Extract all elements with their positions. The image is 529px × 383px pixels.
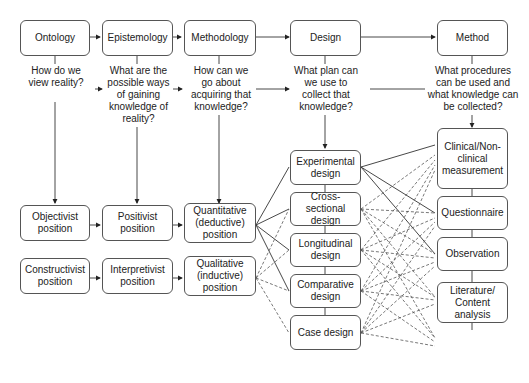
qualitative-label: Qualitative (inductive) position [188,258,252,294]
method-item-label: Literature/ Content analysis [441,285,504,321]
method-item: Literature/ Content analysis [437,282,508,323]
design-item: Cross-sectional design [290,192,361,226]
design-item: Comparative design [290,274,361,308]
epistemology-label: Epistemology [107,32,167,44]
constructivist-position-box: Constructivist position [20,258,90,294]
ontology-label: Ontology [35,32,75,44]
design-item-label: Case design [298,327,354,339]
method-item-label: Questionnaire [441,207,503,219]
method-item: Questionnaire [437,196,508,230]
design-item: Case design [290,315,361,350]
methodology-box: Methodology [184,20,256,56]
design-item-label: Cross-sectional design [294,191,357,227]
interpretivist-position-box: Interpretivist position [102,258,173,294]
positivist-position-box: Positivist position [102,205,173,241]
method-label: Method [456,32,489,44]
objectivist-label: Objectivist position [24,211,86,235]
qualitative-position-box: Qualitative (inductive) position [184,256,256,296]
quantitative-position-box: Quantitative (deductive) position [184,203,256,243]
design-item-label: Comparative design [294,279,357,303]
ontology-box: Ontology [20,20,90,56]
epistemology-box: Epistemology [102,20,173,56]
epistemology-question: What are the possible ways of gaining kn… [104,65,173,125]
quantitative-label: Quantitative (deductive) position [188,205,252,241]
ontology-question: How do we view reality? [24,65,88,89]
connector-lines [0,0,529,383]
design-item-label: Experimental design [294,156,357,180]
method-item: Clinical/Non-clinical measurement [437,128,508,189]
interpretivist-label: Interpretivist position [106,264,169,288]
design-box: Design [290,20,361,56]
method-box: Method [437,20,508,56]
design-item: Longitudinal design [290,233,361,267]
design-label: Design [310,32,341,44]
objectivist-position-box: Objectivist position [20,205,90,241]
methodology-question: How can we go about acquiring that knowl… [188,65,254,113]
design-item-label: Longitudinal design [294,238,357,262]
methodology-label: Methodology [191,32,248,44]
design-question: What plan can we use to collect that kno… [292,65,360,113]
design-item: Experimental design [290,150,361,185]
method-item-label: Observation [446,248,500,260]
method-item: Observation [437,237,508,271]
positivist-label: Positivist position [106,211,169,235]
method-question: What procedures can be used and what kno… [425,65,521,113]
method-item-label: Clinical/Non-clinical measurement [441,141,504,177]
constructivist-label: Constructivist position [24,264,86,288]
